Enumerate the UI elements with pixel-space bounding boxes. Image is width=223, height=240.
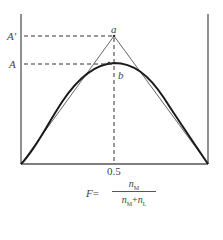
x-tick-label: 0.5 <box>107 166 121 177</box>
formula-denominator: nM+nL <box>108 193 160 206</box>
formula-lhs: F= <box>86 187 99 199</box>
formula: F= nM nM+nL <box>86 177 166 209</box>
fraction-bar <box>112 191 156 192</box>
label-a: A <box>9 59 16 70</box>
formula-fraction: nM nM+nL <box>108 177 160 206</box>
formula-numerator: nM <box>108 177 160 190</box>
label-a-prime: A' <box>7 31 16 42</box>
apex-point <box>113 35 116 38</box>
label-b: b <box>118 70 124 81</box>
label-apex: a <box>111 24 117 35</box>
actual-curve <box>21 63 208 164</box>
curve-peak-point <box>108 62 111 65</box>
